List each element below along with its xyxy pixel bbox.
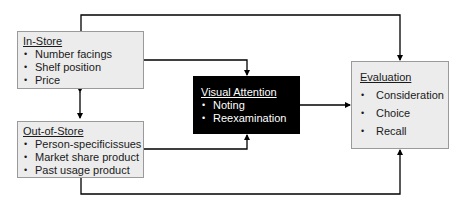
in-store-list: Number facings Shelf position Price: [23, 48, 143, 87]
list-item: Consideration: [360, 86, 448, 104]
arrow-outofstore-to-attention: [144, 135, 247, 149]
out-of-store-box: Out-of-Store Person-specificissues Marke…: [17, 121, 144, 178]
list-item: Recall: [360, 122, 448, 140]
in-store-title: In-Store: [23, 35, 143, 48]
evaluation-title: Evaluation: [360, 68, 448, 86]
evaluation-list: Consideration Choice Recall: [360, 86, 448, 140]
list-item: Past usage product: [23, 164, 143, 177]
flow-diagram: In-Store Number facings Shelf position P…: [0, 0, 466, 203]
visual-attention-box: Visual Attention Noting Reexamination: [193, 76, 300, 134]
list-item: Shelf position: [23, 61, 143, 74]
list-item: Noting: [201, 99, 299, 112]
out-of-store-title: Out-of-Store: [23, 125, 143, 138]
list-item: Price: [23, 74, 143, 87]
arrow-instore-to-attention: [144, 60, 247, 75]
in-store-box: In-Store Number facings Shelf position P…: [17, 31, 144, 89]
list-item: Market share product: [23, 151, 143, 164]
visual-attention-list: Noting Reexamination: [201, 99, 299, 125]
visual-attention-title: Visual Attention: [201, 86, 299, 99]
out-of-store-list: Person-specificissues Market share produ…: [23, 138, 143, 177]
evaluation-box: Evaluation Consideration Choice Recall: [351, 61, 449, 149]
list-item: Choice: [360, 104, 448, 122]
list-item: Reexamination: [201, 112, 299, 125]
list-item: Number facings: [23, 48, 143, 61]
list-item: Person-specificissues: [23, 138, 143, 151]
